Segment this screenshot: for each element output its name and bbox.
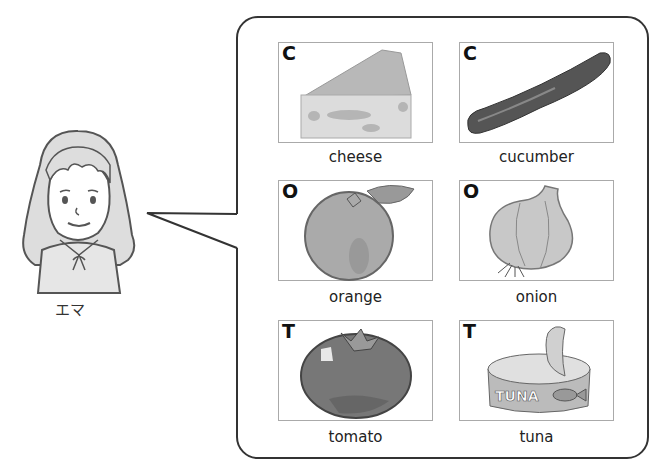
card-tuna: TUNA T [459,320,614,421]
card-word: tomato [278,428,433,446]
card-letter: T [282,320,295,342]
card-orange: O [278,180,433,281]
tuna-can-icon: TUNA [460,321,615,422]
card-cheese: C [278,42,433,143]
card-letter: C [282,42,296,64]
card-cucumber: C [459,42,614,143]
card-word: cucumber [459,148,614,166]
cheese-icon [279,43,434,144]
card-letter: T [463,320,476,342]
girl-icon [10,125,145,295]
character-name: エマ [55,298,85,319]
girl-illustration [10,125,145,299]
card-letter: O [463,180,479,202]
card-tomato: T [278,320,433,421]
card-word: orange [278,288,433,306]
cucumber-icon [460,43,615,144]
card-onion: O [459,180,614,281]
card-word: onion [459,288,614,306]
card-word: tuna [459,428,614,446]
can-label: TUNA [495,388,539,404]
card-letter: C [463,42,477,64]
card-letter: O [282,180,298,202]
tomato-icon [279,321,434,422]
onion-icon [460,181,615,282]
card-word: cheese [278,148,433,166]
orange-icon [279,181,434,282]
